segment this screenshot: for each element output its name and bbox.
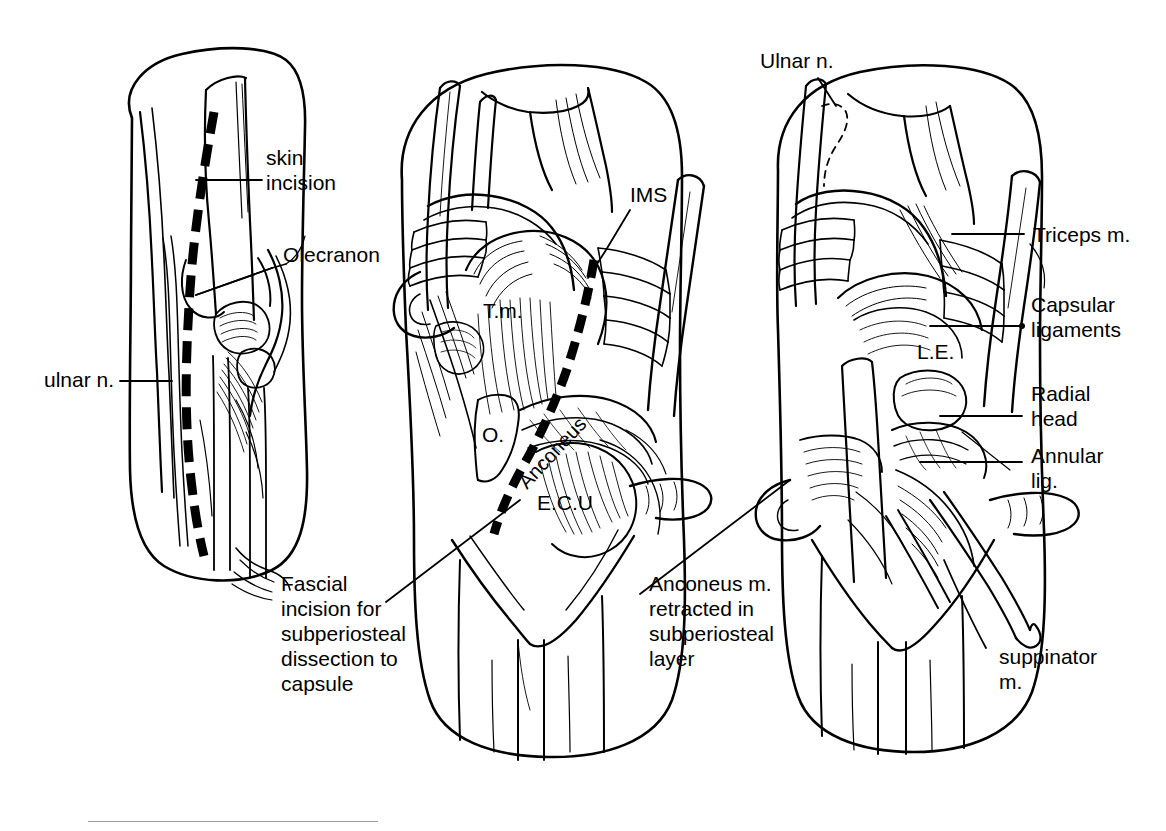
label-fascial-incision: Fascial incision for subperiosteal disse… [281,571,406,696]
label-ims: IMS [630,182,667,207]
label-skin-incision: skin incision [266,145,336,195]
label-ecu: E.C.U [537,490,593,515]
label-capsular-ligaments: Capsular ligaments [1031,292,1121,342]
footer-rule [88,821,378,822]
illustration-page: skin incision Olecranon ulnar n. IMS T.m… [0,0,1166,831]
anatomy-artboard [0,0,1166,831]
label-olecranon: Olecranon [283,242,380,267]
label-triceps-m: Triceps m. [1033,222,1130,247]
label-ulnar-n-right: Ulnar n. [760,48,834,73]
label-lateral-epicondyle-abbrev: L.E. [917,339,954,364]
label-annular-lig: Annular lig. [1031,443,1103,493]
label-olecranon-abbrev: O. [482,422,504,447]
label-anconeus-retracted: Anconeus m. retracted in subperiosteal l… [649,571,774,671]
label-suppinator-m: suppinator m. [999,644,1097,694]
label-triceps-muscle-abbrev: T.m. [483,298,523,323]
label-radial-head: Radial head [1031,381,1091,431]
label-ulnar-n-left: ulnar n. [44,367,114,392]
